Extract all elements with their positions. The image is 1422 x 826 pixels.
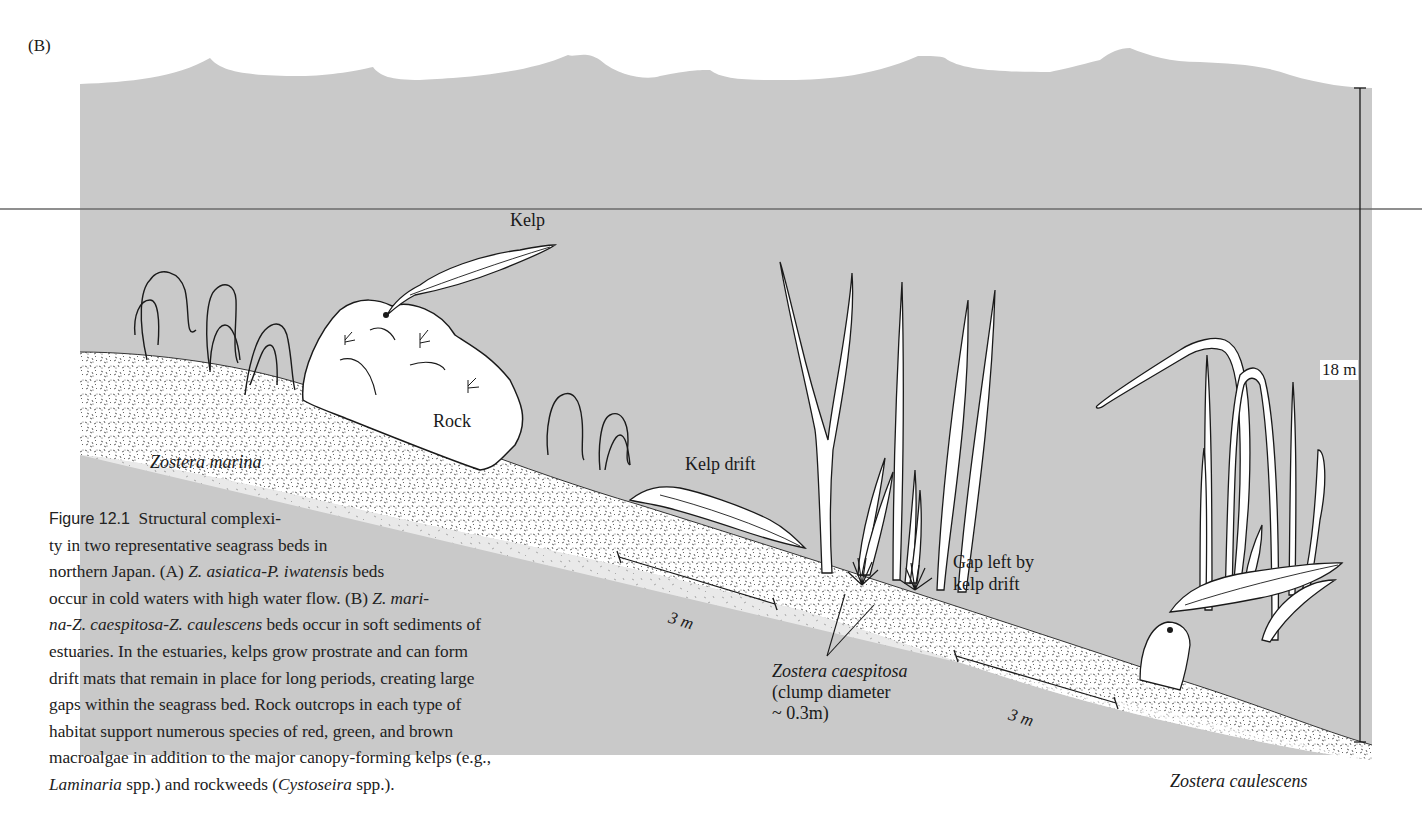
label-zostera-caespitosa: Zostera caespitosa (clump diameter ~ 0.3… <box>772 661 908 724</box>
caption-line: na-Z. caespitosa-Z. caulescens beds occu… <box>49 612 669 639</box>
caption-line: gaps within the seagrass bed. Rock outcr… <box>49 692 669 719</box>
label-kelp: Kelp <box>510 210 545 231</box>
caption-text: northern Japan. (A) <box>49 562 188 581</box>
figure-number: Figure 12.1 <box>49 510 130 527</box>
kelp-holdfast-icon <box>1167 627 1173 633</box>
caption-line: ty in two representative seagrass beds i… <box>49 533 669 560</box>
caption-text: beds occur in soft sediments of <box>262 615 481 634</box>
caption-text-italic: Z. mari- <box>372 589 429 608</box>
caption-line: drift mats that remain in place for long… <box>49 666 669 693</box>
caption-text-italic: na-Z. caespitosa-Z. caulescens <box>49 615 262 634</box>
caption-line: macroalgae in addition to the major cano… <box>49 745 669 772</box>
caption-text: spp.). <box>352 775 395 794</box>
caption-line: Figure 12.1 Structural complexi- <box>49 506 669 533</box>
caption-text-italic: Z. asiatica-P. iwatensis <box>188 562 348 581</box>
label-gap-left-by-kelp-drift: Gap left by kelp drift <box>953 551 1034 595</box>
caption-text: ty in two representative seagrass beds i… <box>49 536 327 555</box>
caption-line: occur in cold waters with high water flo… <box>49 586 669 613</box>
figure-caption: Figure 12.1 Structural complexi- ty in t… <box>49 506 669 799</box>
label-depth-18m: 18 m <box>1320 360 1358 380</box>
label-caespitosa-name: Zostera caespitosa <box>772 661 908 682</box>
caption-line: Laminaria spp.) and rockweeds (Cystoseir… <box>49 772 669 799</box>
caption-text: beds <box>348 562 384 581</box>
label-clump-diameter-line-2: ~ 0.3m) <box>772 703 908 724</box>
label-gap-line-1: Gap left by <box>953 551 1034 573</box>
caption-text: drift mats that remain in place for long… <box>49 669 474 688</box>
label-kelp-drift: Kelp drift <box>685 454 755 475</box>
caption-text-italic: Laminaria <box>49 775 122 794</box>
label-zostera-caulescens: Zostera caulescens <box>1170 771 1307 792</box>
kelp-holdfast-icon <box>383 312 389 318</box>
caption-text-italic: Cystoseira <box>278 775 352 794</box>
caption-text: spp.) and rockweeds ( <box>122 775 278 794</box>
label-gap-line-2: kelp drift <box>953 573 1034 595</box>
label-clump-diameter-line-1: (clump diameter <box>772 682 908 703</box>
label-rock: Rock <box>433 411 471 432</box>
label-zostera-marina: Zostera marina <box>150 452 262 473</box>
caption-text: occur in cold waters with high water flo… <box>49 589 372 608</box>
caption-text: habitat support numerous species of red,… <box>49 722 453 741</box>
caption-text: macroalgae in addition to the major cano… <box>49 748 491 767</box>
panel-label: (B) <box>28 36 51 56</box>
caption-text: Structural complexi- <box>139 509 282 528</box>
caption-text: estuaries. In the estuaries, kelps grow … <box>49 642 468 661</box>
caption-line: northern Japan. (A) Z. asiatica-P. iwate… <box>49 559 669 586</box>
caption-line: estuaries. In the estuaries, kelps grow … <box>49 639 669 666</box>
caption-text: gaps within the seagrass bed. Rock outcr… <box>49 695 461 714</box>
caption-line: habitat support numerous species of red,… <box>49 719 669 746</box>
